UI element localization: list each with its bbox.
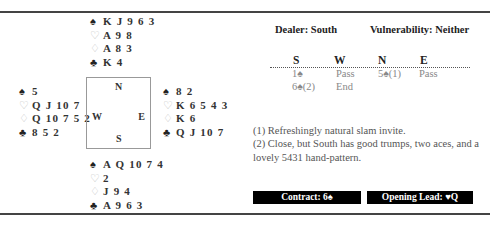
north-hand: ♠K J 9 6 3 ♡A 9 8 ♢A 8 3 ♣K 4: [90, 15, 155, 69]
bottom-rule: [0, 213, 490, 215]
diamond-icon: ♢: [163, 112, 176, 126]
west-hand: ♠5 ♡Q J 10 7 ♢Q 10 7 5 2 ♣8 5 2: [19, 85, 91, 139]
west-clubs: ♣8 5 2: [19, 126, 91, 140]
compass-north: N: [115, 81, 122, 92]
note-1: (1) Refreshingly natural slam invite.: [253, 124, 483, 137]
auction-header-east: E: [420, 54, 428, 66]
east-spades: ♠8 2: [163, 85, 228, 99]
vulnerability-label: Vulnerability: Neither: [370, 24, 469, 35]
north-hearts: ♡A 9 8: [90, 29, 155, 43]
compass-box: N W E S: [86, 77, 151, 149]
heart-icon: ♡: [90, 29, 103, 43]
compass-east: E: [138, 111, 145, 122]
auction-header-west: W: [334, 54, 346, 66]
south-hand: ♠A Q 10 7 4 ♡2 ♢J 9 4 ♣A 9 6 3: [90, 158, 164, 212]
spade-icon: ♠: [90, 15, 103, 29]
dealer-label: Dealer: South: [275, 24, 337, 35]
auction-header-north: N: [378, 54, 386, 66]
bid: End: [336, 81, 353, 92]
heart-icon: ♡: [90, 172, 103, 186]
west-hearts: ♡Q J 10 7: [19, 99, 91, 113]
west-spades: ♠5: [19, 85, 91, 99]
bid: Pass: [419, 68, 438, 79]
spade-icon: ♠: [90, 158, 103, 172]
bid: 1♠: [292, 68, 303, 79]
auction-notes: (1) Refreshingly natural slam invite. (2…: [253, 124, 483, 164]
south-hearts: ♡2: [90, 172, 164, 186]
contract-badge: Contract: 6♠: [253, 191, 361, 204]
diamond-icon: ♢: [19, 112, 32, 126]
club-icon: ♣: [163, 126, 176, 140]
south-clubs: ♣A 9 6 3: [90, 199, 164, 213]
club-icon: ♣: [90, 56, 103, 70]
club-icon: ♣: [90, 199, 103, 213]
south-diamonds: ♢J 9 4: [90, 185, 164, 199]
north-clubs: ♣K 4: [90, 56, 155, 70]
auction-row: 1♠ Pass 5♠(1) Pass: [270, 68, 470, 81]
compass-west: W: [92, 111, 102, 122]
auction-table: S W N E 1♠ Pass 5♠(1) Pass 6♠(2) End: [270, 54, 470, 94]
heart-icon: ♡: [163, 99, 176, 113]
diamond-icon: ♢: [90, 42, 103, 56]
bid: Pass: [336, 68, 355, 79]
east-hand: ♠8 2 ♡K 6 5 4 3 ♢K 6 ♣Q J 10 7: [163, 85, 228, 139]
club-icon: ♣: [19, 126, 32, 140]
auction-row: 6♠(2) End: [270, 81, 470, 94]
note-2: (2) Close, but South has good trumps, tw…: [253, 137, 483, 164]
bid: 5♠(1): [378, 68, 401, 79]
auction-header-south: S: [293, 54, 299, 66]
top-rule: [0, 11, 490, 13]
diamond-icon: ♢: [90, 185, 103, 199]
spade-icon: ♠: [19, 85, 32, 99]
east-diamonds: ♢K 6: [163, 112, 228, 126]
compass-south: S: [116, 133, 122, 144]
north-diamonds: ♢A 8 3: [90, 42, 155, 56]
east-hearts: ♡K 6 5 4 3: [163, 99, 228, 113]
bid: 6♠(2): [292, 81, 315, 92]
spade-icon: ♠: [163, 85, 176, 99]
auction-header: S W N E: [270, 54, 470, 67]
north-spades: ♠K J 9 6 3: [90, 15, 155, 29]
west-diamonds: ♢Q 10 7 5 2: [19, 112, 91, 126]
east-clubs: ♣Q J 10 7: [163, 126, 228, 140]
opening-lead-badge: Opening Lead: ♥Q: [367, 191, 473, 204]
heart-icon: ♡: [19, 99, 32, 113]
south-spades: ♠A Q 10 7 4: [90, 158, 164, 172]
